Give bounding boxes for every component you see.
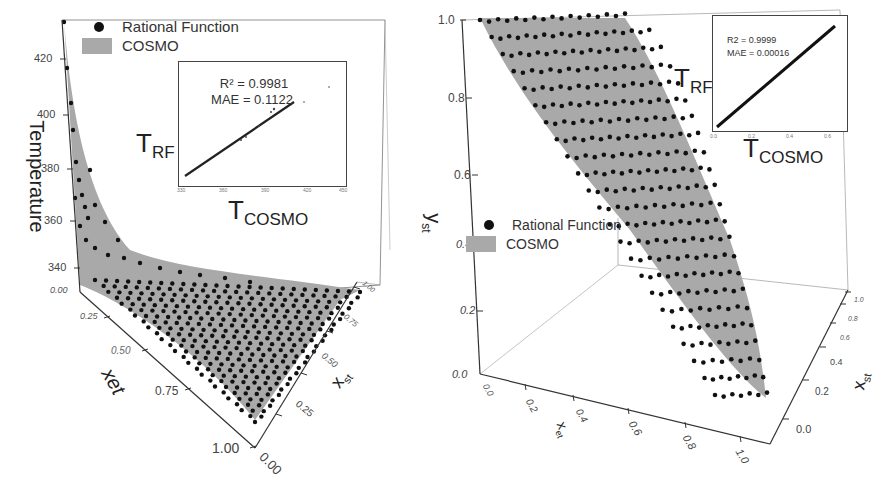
right-inset-ylabel: TRF	[674, 63, 713, 98]
right-y-axis	[770, 290, 848, 444]
left-inset-parity-plot: R² = 0.9981 MAE = 0.1122 330 360 390 420…	[178, 61, 347, 187]
left-inset-r2: R² = 0.9981	[199, 76, 309, 91]
left-inset-mae: MAE = 0.1122	[187, 92, 317, 107]
left-z-axis-title: Temperature	[25, 120, 48, 232]
left-z-tick-420: 420	[34, 52, 52, 64]
right-y-tick-10: 1.0	[854, 296, 864, 303]
right-inset-mae: MAE = 0.00016	[727, 47, 789, 60]
right-z-tick-08: 0.8	[448, 91, 465, 105]
right-z-axis-title: yst	[419, 213, 445, 232]
right-z-tick-02: 0.2	[460, 304, 475, 316]
left-chart-panel: 420 400 380 360 340 0.00 Temperature 0.2…	[0, 0, 430, 486]
right-inset-r2: R2 = 0.9999	[727, 34, 776, 47]
left-z-tick-min: 0.00	[50, 285, 68, 295]
left-x-tick-025: 0.25	[80, 311, 98, 321]
surface-swatch-icon	[466, 236, 496, 252]
right-x-axis	[480, 374, 770, 444]
right-inset-xlabel: TCOSMO	[743, 133, 823, 168]
right-z-tick-06: 0.6	[454, 168, 471, 182]
left-inset-xlabel: TCOSMO	[228, 195, 308, 230]
dot-marker-icon	[484, 220, 494, 230]
right-z-tick-10: 1.0	[438, 13, 455, 27]
right-y-tick-06: 0.6	[840, 334, 850, 341]
right-legend: Rational Function COSMO	[466, 215, 621, 253]
legend-item-cosmo: COSMO	[82, 36, 239, 55]
legend-item-cosmo: COSMO	[466, 234, 621, 253]
right-z-tick-00: 0.0	[452, 368, 467, 380]
left-z-tick-340: 340	[48, 261, 66, 273]
dot-marker-icon	[94, 22, 104, 32]
left-x-tick-075: 0.75	[155, 384, 178, 398]
left-z-tick-400: 400	[37, 108, 55, 120]
legend-item-rational-function: Rational Function	[82, 17, 239, 36]
right-y-tick-02: 0.2	[815, 386, 829, 397]
right-y-tick-00: 0.0	[796, 423, 811, 435]
right-y-axis-title: xst	[848, 371, 873, 392]
left-inset-ylabel: TRF	[136, 128, 175, 163]
right-y-tick-04: 0.4	[830, 357, 843, 367]
right-chart-panel: 1.0 0.8 0.6 0.4 0.2 0.0 yst 0.0 0.2 0.4 …	[430, 0, 886, 486]
legend-item-rational-function: Rational Function	[466, 215, 621, 234]
right-y-tick-08: 0.8	[848, 315, 858, 322]
left-legend: Rational Function COSMO	[82, 17, 239, 55]
surface-swatch-icon	[82, 38, 112, 54]
right-inset-parity-plot: R2 = 0.9999 MAE = 0.00016 0.0 0.2 0.4 0.…	[712, 15, 848, 132]
right-z-axis	[462, 20, 480, 374]
left-x-tick-050: 0.50	[111, 345, 130, 356]
left-x-tick-100: 1.00	[212, 440, 239, 456]
